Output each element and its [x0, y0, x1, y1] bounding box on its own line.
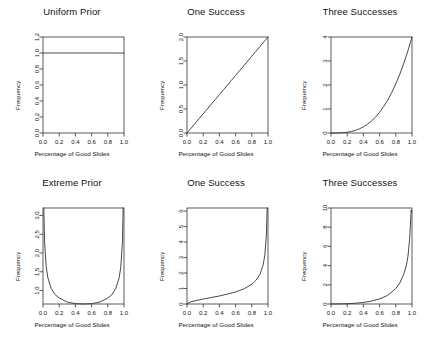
svg-text:0.0: 0.0: [34, 128, 40, 137]
plot-area: 0.00.20.40.60.81.001234: [288, 0, 432, 170]
panel-one-success-uniform: One Success Frequency Percentage of Good…: [144, 0, 288, 170]
svg-text:3: 3: [322, 59, 328, 63]
svg-text:0.0: 0.0: [327, 139, 336, 145]
panel-three-successes-extreme: Three Successes Frequency Percentage of …: [288, 171, 432, 341]
figure-canvas: Uniform Prior Frequency Percentage of Go…: [0, 0, 432, 341]
svg-text:1.0: 1.0: [120, 139, 129, 145]
svg-text:0.5: 0.5: [178, 104, 184, 113]
svg-text:2: 2: [178, 271, 184, 275]
svg-text:0.6: 0.6: [34, 80, 40, 89]
svg-text:8: 8: [322, 225, 328, 229]
svg-text:0.0: 0.0: [183, 310, 192, 316]
svg-text:1.0: 1.0: [120, 310, 129, 316]
svg-text:0.0: 0.0: [39, 139, 48, 145]
svg-text:0.6: 0.6: [231, 139, 240, 145]
svg-text:0.8: 0.8: [104, 139, 113, 145]
svg-text:1: 1: [178, 286, 184, 290]
plot-area: 0.00.20.40.60.81.00.00.20.40.60.81.01.2: [0, 0, 144, 170]
svg-text:2: 2: [322, 282, 328, 286]
panel-extreme-prior: Extreme Prior Frequency Percentage of Go…: [0, 171, 144, 341]
svg-text:5: 5: [178, 224, 184, 228]
svg-text:0.2: 0.2: [199, 139, 208, 145]
svg-text:4: 4: [322, 263, 328, 267]
svg-text:6: 6: [178, 209, 184, 213]
svg-text:0.8: 0.8: [392, 310, 401, 316]
svg-text:2.0: 2.0: [34, 248, 40, 257]
plot-area: 0.00.20.40.60.81.00.00.51.01.52.0: [144, 0, 288, 170]
svg-text:1: 1: [322, 107, 328, 111]
svg-text:2.5: 2.5: [34, 229, 40, 238]
svg-text:0.2: 0.2: [199, 310, 208, 316]
svg-text:1.5: 1.5: [178, 56, 184, 65]
svg-text:0.4: 0.4: [359, 139, 368, 145]
svg-text:0.0: 0.0: [39, 310, 48, 316]
svg-text:0: 0: [178, 302, 184, 306]
svg-text:0.8: 0.8: [392, 139, 401, 145]
svg-text:1.0: 1.0: [408, 310, 417, 316]
svg-text:4: 4: [178, 240, 184, 244]
svg-text:0.8: 0.8: [104, 310, 113, 316]
svg-text:1.0: 1.0: [408, 139, 417, 145]
svg-text:0.4: 0.4: [34, 96, 40, 105]
svg-text:3.0: 3.0: [34, 211, 40, 220]
svg-text:1.2: 1.2: [34, 32, 40, 41]
svg-text:0.4: 0.4: [359, 310, 368, 316]
svg-text:0.6: 0.6: [231, 310, 240, 316]
svg-text:10: 10: [322, 204, 328, 211]
svg-text:0.4: 0.4: [71, 310, 80, 316]
plot-area: 0.00.20.40.60.81.01.01.52.02.53.0: [0, 171, 144, 341]
svg-text:6: 6: [322, 244, 328, 248]
svg-text:2: 2: [322, 83, 328, 87]
svg-text:0.6: 0.6: [87, 139, 96, 145]
svg-text:2.0: 2.0: [178, 32, 184, 41]
plot-area: 0.00.20.40.60.81.00246810: [288, 171, 432, 341]
plot-area: 0.00.20.40.60.81.00123456: [144, 171, 288, 341]
svg-text:0.8: 0.8: [248, 139, 257, 145]
svg-text:0.0: 0.0: [327, 310, 336, 316]
panel-three-successes-uniform: Three Successes Frequency Percentage of …: [288, 0, 432, 170]
svg-text:1.0: 1.0: [34, 48, 40, 57]
svg-text:0.2: 0.2: [343, 139, 352, 145]
svg-text:0.2: 0.2: [34, 112, 40, 121]
svg-text:0.6: 0.6: [87, 310, 96, 316]
svg-text:0.2: 0.2: [55, 310, 64, 316]
panel-one-success-extreme: One Success Frequency Percentage of Good…: [144, 171, 288, 341]
svg-text:0.0: 0.0: [178, 128, 184, 137]
svg-text:4: 4: [322, 35, 328, 39]
svg-text:0: 0: [322, 302, 328, 306]
svg-text:0: 0: [322, 131, 328, 135]
svg-text:0.6: 0.6: [375, 310, 384, 316]
svg-text:0.4: 0.4: [215, 139, 224, 145]
svg-text:0.0: 0.0: [183, 139, 192, 145]
svg-text:0.8: 0.8: [34, 64, 40, 73]
svg-text:0.4: 0.4: [71, 139, 80, 145]
svg-text:1.0: 1.0: [178, 80, 184, 89]
svg-text:0.4: 0.4: [215, 310, 224, 316]
svg-text:1.0: 1.0: [264, 310, 273, 316]
svg-text:1.0: 1.0: [34, 286, 40, 295]
panel-uniform-prior: Uniform Prior Frequency Percentage of Go…: [0, 0, 144, 170]
svg-text:1.0: 1.0: [264, 139, 273, 145]
svg-text:0.8: 0.8: [248, 310, 257, 316]
svg-text:0.2: 0.2: [343, 310, 352, 316]
svg-text:1.5: 1.5: [34, 267, 40, 276]
svg-text:0.6: 0.6: [375, 139, 384, 145]
svg-text:3: 3: [178, 255, 184, 259]
svg-text:0.2: 0.2: [55, 139, 64, 145]
